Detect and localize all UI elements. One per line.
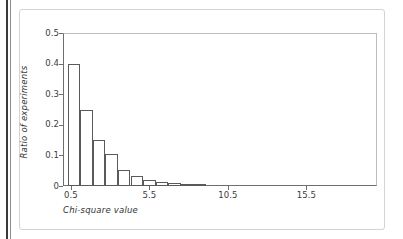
y-tick-label: 0 <box>37 182 59 191</box>
histogram-bar <box>181 184 194 186</box>
histogram-bar <box>168 183 181 186</box>
y-tick-mark <box>59 155 63 156</box>
y-tick-mark <box>59 186 63 187</box>
histogram-bar <box>105 154 118 186</box>
y-tick-label: 0.1 <box>37 151 59 160</box>
x-tick-label: 15.5 <box>297 190 316 200</box>
x-tick-mark <box>149 186 150 190</box>
x-tick-mark <box>228 186 229 190</box>
y-axis-title: Ratio of experiments <box>19 65 29 158</box>
figure-root: 00.10.20.30.40.5 Chi-square value Ratio … <box>0 0 403 239</box>
x-tick-label: 10.5 <box>218 190 237 200</box>
page-spine-light <box>10 0 11 239</box>
y-tick-mark <box>59 64 63 65</box>
x-tick-mark <box>306 186 307 190</box>
x-tick-label: 0.5 <box>64 190 78 200</box>
histogram-bar <box>118 170 131 186</box>
y-axis-ticks: 00.10.20.30.40.5 <box>34 0 59 186</box>
histogram-bar <box>131 176 144 186</box>
histogram-bar <box>156 182 169 186</box>
y-tick-label: 0.4 <box>37 59 59 68</box>
y-tick-mark <box>59 94 63 95</box>
x-tick-mark <box>71 186 72 190</box>
y-tick-mark <box>59 125 63 126</box>
y-tick-label: 0.5 <box>37 29 59 38</box>
histogram-bar <box>93 140 106 187</box>
y-tick-label: 0.2 <box>37 120 59 129</box>
histogram-bar <box>193 184 206 186</box>
x-tick-label: 5.5 <box>142 190 156 200</box>
histogram-bar <box>80 110 93 187</box>
y-tick-label: 0.3 <box>37 90 59 99</box>
histogram-bars <box>63 33 377 186</box>
x-axis-title: Chi-square value <box>63 205 138 215</box>
page-spine-dark <box>6 0 8 239</box>
histogram-bar <box>68 64 81 186</box>
y-tick-mark <box>59 33 63 34</box>
